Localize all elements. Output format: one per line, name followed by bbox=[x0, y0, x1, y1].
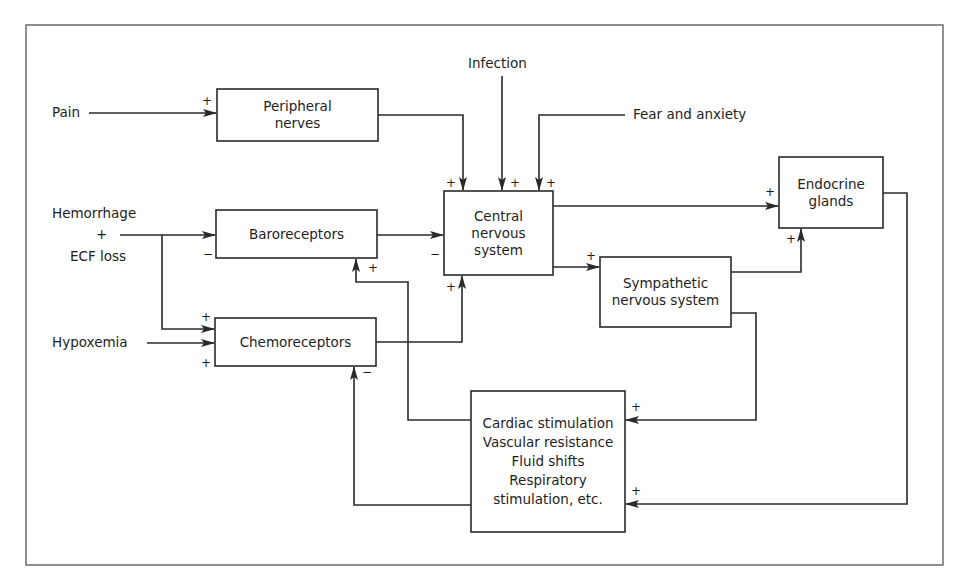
endocrine-glands-label: Endocrine glands bbox=[779, 157, 883, 228]
endocrine-line-2: glands bbox=[809, 193, 854, 210]
sign-cns-endocrine: + bbox=[765, 186, 775, 198]
sympathetic-line-1: Sympathetic bbox=[623, 275, 708, 292]
chemoreceptors-label: Chemoreceptors bbox=[215, 318, 376, 366]
edge-effectors-chemoreceptors bbox=[354, 367, 471, 505]
sign-effector-chemo: − bbox=[362, 366, 372, 378]
effectors-line-1: Cardiac stimulation bbox=[483, 414, 614, 433]
effectors-line-2: Vascular resistance bbox=[483, 433, 614, 452]
peripheral-nerves-label: Peripheral nerves bbox=[217, 89, 378, 141]
sign-endocrine-effector: + bbox=[631, 485, 641, 497]
sign-fear-cns: + bbox=[546, 177, 556, 189]
input-hypoxemia: Hypoxemia bbox=[52, 334, 128, 351]
input-fear-anxiety: Fear and anxiety bbox=[633, 106, 746, 123]
input-infection: Infection bbox=[468, 55, 527, 72]
sign-cns-sympathetic: + bbox=[586, 250, 596, 262]
sign-sympathetic-effector: + bbox=[631, 401, 641, 413]
sign-baro-cns: − bbox=[430, 248, 440, 260]
input-hemorrhage: Hemorrhage bbox=[52, 205, 136, 222]
effectors-line-5: stimulation, etc. bbox=[493, 490, 603, 509]
effectors-label: Cardiac stimulation Vascular resistance … bbox=[471, 391, 625, 532]
chemoreceptors-line-1: Chemoreceptors bbox=[240, 334, 352, 351]
input-hemorrhage-plus: + bbox=[96, 226, 107, 243]
sympathetic-label: Sympathetic nervous system bbox=[600, 257, 731, 327]
sign-effector-baro: + bbox=[368, 262, 378, 274]
effectors-line-3: Fluid shifts bbox=[512, 452, 585, 471]
peripheral-line-1: Peripheral bbox=[263, 98, 331, 115]
sign-hem-baro: − bbox=[203, 248, 213, 260]
effectors-line-4: Respiratory bbox=[509, 471, 586, 490]
edge-sympathetic-effectors bbox=[626, 313, 756, 420]
baroreceptors-label: Baroreceptors bbox=[216, 210, 377, 258]
baroreceptors-line-1: Baroreceptors bbox=[249, 226, 344, 243]
sign-hypox-chemo: + bbox=[201, 357, 211, 369]
sign-infection-cns: + bbox=[510, 177, 520, 189]
input-pain: Pain bbox=[52, 104, 80, 121]
cns-label: Central nervous system bbox=[444, 191, 553, 275]
sympathetic-line-2: nervous system bbox=[612, 292, 719, 309]
sign-chemo-cns: + bbox=[446, 281, 456, 293]
cns-line-1: Central bbox=[474, 208, 523, 225]
sign-pain-peripheral: + bbox=[202, 95, 212, 107]
sign-hem-chemo: + bbox=[201, 311, 211, 323]
cns-line-2: nervous bbox=[471, 225, 525, 242]
edge-endocrine-effectors bbox=[626, 193, 907, 504]
endocrine-line-1: Endocrine bbox=[797, 176, 865, 193]
input-ecf-loss: ECF loss bbox=[70, 248, 126, 265]
cns-line-3: system bbox=[474, 242, 523, 259]
sign-sympathetic-endocrine: + bbox=[786, 233, 796, 245]
peripheral-line-2: nerves bbox=[275, 115, 321, 132]
sign-peripheral-cns: + bbox=[446, 177, 456, 189]
